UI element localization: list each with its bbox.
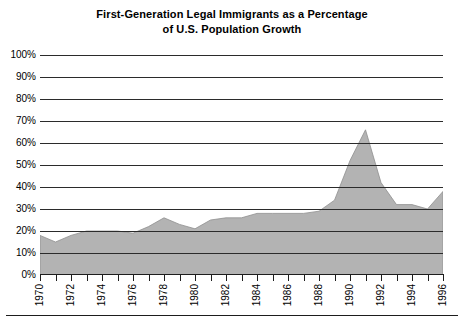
y-tick-label: 100% (2, 50, 36, 60)
x-tick (102, 275, 103, 281)
x-tick (56, 275, 57, 281)
gridline (40, 253, 443, 254)
x-tick (428, 275, 429, 281)
x-tick (180, 275, 181, 281)
x-tick-label: 1976 (128, 284, 138, 306)
x-tick (257, 275, 258, 281)
x-tick-label: 1974 (97, 284, 107, 306)
x-tick (381, 275, 382, 281)
x-tick (211, 275, 212, 281)
x-tick (350, 275, 351, 281)
x-tick-label: 1992 (376, 284, 386, 306)
x-tick (118, 275, 119, 281)
y-tick-label: 10% (2, 248, 36, 258)
x-tick-label: 1982 (221, 284, 231, 306)
gridline (40, 187, 443, 188)
x-tick-label: 1972 (66, 284, 76, 306)
x-tick (133, 275, 134, 281)
bottom-rule (6, 315, 458, 316)
x-tick-label: 1984 (252, 284, 262, 306)
chart-title: First-Generation Legal Immigrants as a P… (0, 7, 464, 37)
gridline (40, 209, 443, 210)
x-tick (335, 275, 336, 281)
y-tick-label: 60% (2, 138, 36, 148)
gridline (40, 165, 443, 166)
y-axis: 0%10%20%30%40%50%60%70%80%90%100% (0, 0, 36, 326)
x-tick (195, 275, 196, 281)
chart-figure: First-Generation Legal Immigrants as a P… (0, 0, 464, 326)
x-tick-label: 1996 (438, 284, 448, 306)
x-tick (397, 275, 398, 281)
y-tick-label: 50% (2, 160, 36, 170)
x-tick (164, 275, 165, 281)
gridline (40, 55, 443, 56)
x-tick (366, 275, 367, 281)
plot-area (40, 55, 443, 275)
y-tick-label: 30% (2, 204, 36, 214)
x-tick (71, 275, 72, 281)
y-tick-label: 80% (2, 94, 36, 104)
x-tick (443, 275, 444, 281)
y-tick-label: 0% (2, 270, 36, 280)
gridline (40, 77, 443, 78)
x-tick (226, 275, 227, 281)
x-tick-label: 1988 (314, 284, 324, 306)
x-tick (87, 275, 88, 281)
gridline (40, 231, 443, 232)
x-tick-label: 1980 (190, 284, 200, 306)
y-tick-label: 20% (2, 226, 36, 236)
x-tick (288, 275, 289, 281)
x-tick (412, 275, 413, 281)
x-tick (273, 275, 274, 281)
x-tick (319, 275, 320, 281)
chart-title-line-1: First-Generation Legal Immigrants as a P… (0, 7, 464, 22)
chart-title-line-2: of U.S. Population Growth (0, 22, 464, 37)
x-tick-label: 1970 (35, 284, 45, 306)
x-tick (304, 275, 305, 281)
x-tick (40, 275, 41, 281)
x-tick (242, 275, 243, 281)
x-tick (149, 275, 150, 281)
y-tick-label: 90% (2, 72, 36, 82)
x-tick-label: 1994 (407, 284, 417, 306)
gridline (40, 121, 443, 122)
y-tick-label: 70% (2, 116, 36, 126)
y-tick-label: 40% (2, 182, 36, 192)
x-tick-label: 1986 (283, 284, 293, 306)
x-tick-label: 1978 (159, 284, 169, 306)
gridline (40, 143, 443, 144)
gridline (40, 99, 443, 100)
x-tick-label: 1990 (345, 284, 355, 306)
